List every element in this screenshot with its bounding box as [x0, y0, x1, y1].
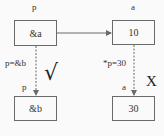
- box-pointer-p: &a: [14, 20, 57, 46]
- box-value: 10: [129, 27, 139, 38]
- left-edge-label: p=&b: [5, 59, 26, 68]
- check-icon: √: [44, 62, 58, 84]
- pointer-diagram: p &a a 10 p=&b *p=30 √ X p &b a 30: [0, 0, 164, 136]
- box-var-a-after: 30: [112, 96, 155, 121]
- top-right-var-label: a: [131, 3, 135, 12]
- box-pointer-p-after: &b: [14, 96, 57, 121]
- right-edge-label: *p=30: [103, 59, 126, 68]
- bottom-left-var-label: p: [22, 83, 27, 92]
- box-value: &a: [29, 28, 41, 39]
- box-value: 30: [129, 103, 139, 114]
- bottom-right-var-label: a: [122, 83, 126, 92]
- top-left-var-label: p: [32, 3, 37, 12]
- x-icon: X: [146, 74, 157, 89]
- box-var-a: 10: [112, 20, 155, 45]
- box-value: &b: [29, 103, 42, 114]
